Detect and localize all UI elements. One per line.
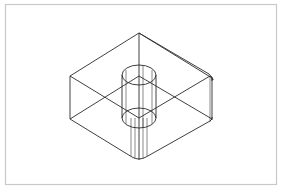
block-wireframe xyxy=(70,33,213,160)
wireframe-drawing xyxy=(0,0,288,193)
drawing-frame xyxy=(6,5,277,185)
block-bottom-face xyxy=(70,117,212,159)
